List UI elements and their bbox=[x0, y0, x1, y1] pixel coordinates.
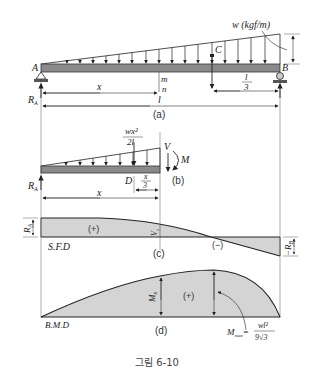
beam-diagram: w (kgf/m) A B C m n x l l 3 RA (a) bbox=[0, 0, 317, 378]
sfd-title: S.F.D bbox=[48, 241, 71, 252]
bmd-title: B.M.D bbox=[45, 320, 69, 330]
moment-m-label: M bbox=[180, 154, 190, 165]
point-d-label: D bbox=[124, 175, 133, 186]
section-m-label: m bbox=[161, 74, 168, 84]
force-num: wx² bbox=[125, 126, 138, 136]
pin-support-icon bbox=[34, 72, 48, 82]
sfd-ra-label: RA bbox=[22, 224, 33, 235]
shear-v-label: V bbox=[164, 141, 172, 152]
dim-l3-den: 3 bbox=[243, 82, 249, 92]
roller-support-icon bbox=[273, 73, 287, 84]
beam-segment bbox=[41, 166, 160, 173]
sfd-positive-area bbox=[41, 218, 211, 237]
mmax-den: 9√3 bbox=[255, 333, 267, 342]
point-b-label: B bbox=[282, 62, 288, 73]
dim-x3-num: x bbox=[143, 172, 148, 181]
figure-caption: 그림 6-10 bbox=[135, 357, 179, 368]
panel-b: wx² 2l V M D x 3 x RA (b) bbox=[27, 126, 190, 198]
dim-x-b: x bbox=[96, 187, 102, 198]
force-den: 2l bbox=[127, 137, 135, 147]
panel-c-label: (c) bbox=[153, 248, 165, 259]
mmax-label: Mmax= bbox=[226, 327, 249, 338]
mmax-num: wl² bbox=[258, 321, 269, 330]
beam bbox=[41, 64, 280, 72]
load-label: w (kgf/m) bbox=[232, 19, 271, 31]
panel-a-label: (a) bbox=[153, 109, 165, 120]
reaction-a-b-label: RA bbox=[27, 180, 38, 192]
dim-x3-den: 3 bbox=[142, 181, 147, 190]
bmd-positive-label: (+) bbox=[183, 291, 194, 301]
dim-l3-num: l bbox=[245, 72, 248, 82]
sfd-rb-label: −RB bbox=[283, 240, 294, 256]
point-a-label: A bbox=[31, 62, 39, 73]
load-triangle-b bbox=[41, 148, 160, 166]
moment-arc-icon bbox=[173, 151, 179, 170]
load-triangle bbox=[41, 34, 280, 64]
panel-b-label: (b) bbox=[172, 175, 184, 186]
panel-d-bmd: Mx (+) B.M.D (d) Mmax= wl² 9√3 bbox=[41, 270, 280, 342]
point-c-label: C bbox=[215, 44, 222, 55]
load-arrows-b bbox=[66, 150, 147, 165]
dim-x-label: x bbox=[96, 81, 102, 92]
section-n-label: n bbox=[162, 84, 167, 94]
sfd-positive-label: (+) bbox=[88, 224, 99, 234]
dim-l-label: l bbox=[158, 94, 161, 105]
sfd-negative-label: (−) bbox=[212, 240, 223, 250]
panel-d-label: (d) bbox=[155, 325, 167, 336]
panel-a: w (kgf/m) A B C m n x l l 3 RA (a) bbox=[27, 19, 300, 120]
reaction-a-label: RA bbox=[27, 94, 38, 106]
